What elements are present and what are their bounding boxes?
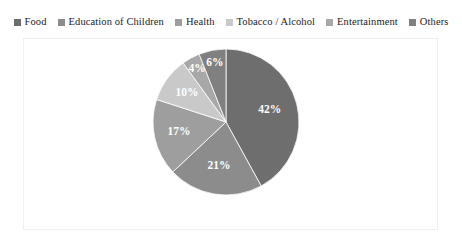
legend-item[interactable]: Food	[14, 17, 47, 28]
legend-item-label: Food	[25, 17, 47, 28]
legend-swatch-icon	[175, 19, 182, 26]
pie-slice-label: 21%	[207, 159, 230, 171]
pie-svg: 42%21%17%10%4%6%	[152, 48, 300, 196]
pie-slice-label: 6%	[206, 56, 223, 68]
legend-item-label: Entertainment	[337, 17, 398, 28]
legend-swatch-icon	[326, 19, 333, 26]
legend-item-label: Tobacco / Alcohol	[237, 17, 316, 28]
pie-chart-figure: FoodEducation of ChildrenHealthTobacco /…	[0, 0, 462, 245]
legend-item[interactable]: Health	[175, 17, 215, 28]
pie-graphic: 42%21%17%10%4%6%	[152, 48, 300, 196]
legend-item[interactable]: Others	[409, 17, 449, 28]
legend-swatch-icon	[14, 19, 21, 26]
legend-item[interactable]: Tobacco / Alcohol	[226, 17, 316, 28]
legend-swatch-icon	[226, 19, 233, 26]
pie-slice-label: 17%	[167, 125, 190, 137]
legend-item[interactable]: Entertainment	[326, 17, 398, 28]
legend-item-label: Education of Children	[69, 17, 164, 28]
legend-swatch-icon	[409, 19, 416, 26]
legend-swatch-icon	[58, 19, 65, 26]
legend-item[interactable]: Education of Children	[58, 17, 164, 28]
chart-legend: FoodEducation of ChildrenHealthTobacco /…	[0, 17, 462, 28]
legend-item-label: Health	[186, 17, 215, 28]
legend-item-label: Others	[420, 17, 449, 28]
pie-slice-label: 42%	[258, 103, 281, 115]
pie-slice-label: 10%	[176, 86, 199, 98]
